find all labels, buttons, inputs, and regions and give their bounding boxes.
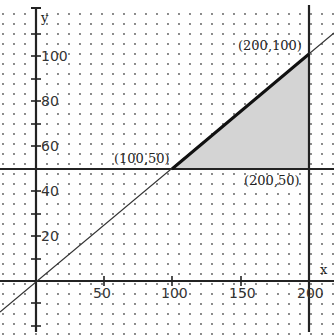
vertex-label-200-100: (200,100)	[238, 38, 302, 53]
y-tick-label: 40	[41, 183, 59, 199]
x-axis-label: x	[320, 262, 328, 277]
vertex-label-100-50: (100,50)	[114, 151, 170, 166]
vertex-label-200-50: (200,50)	[244, 173, 300, 188]
x-tick-label: 150	[229, 285, 256, 301]
y-axis-label: y	[40, 10, 49, 25]
x-tick-label: 200	[297, 285, 324, 301]
y-tick-label: 60	[41, 138, 59, 154]
y-tick-label: 100	[41, 48, 68, 64]
feasible-region-graph: 100 80 60 40 20 50 100 150 200 y x (100,…	[0, 0, 334, 335]
x-tick-label: 50	[93, 285, 111, 301]
y-tick-label: 20	[41, 228, 59, 244]
x-tick-label: 100	[161, 285, 188, 301]
y-tick-label: 80	[41, 93, 59, 109]
